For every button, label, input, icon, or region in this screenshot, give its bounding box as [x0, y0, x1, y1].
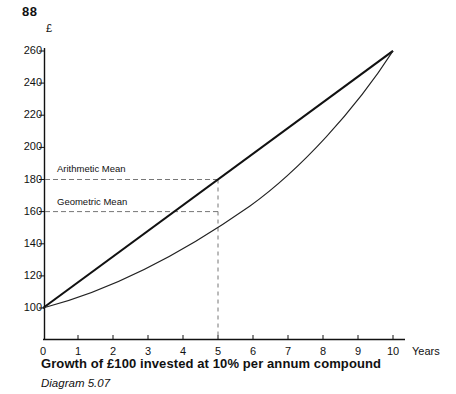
chart-caption-title: Growth of £100 invested at 10% per annum…: [41, 356, 381, 371]
annotation-arithmetic-mean: Arithmetic Mean: [57, 163, 126, 174]
annotation-geometric-mean: Geometric Mean: [57, 196, 127, 207]
figure-container: 88 £ 260 240 220 200 180 160 140 120 100…: [0, 0, 456, 394]
chart-figure-number: Diagram 5.07: [41, 377, 110, 389]
y-tick-marks: [39, 51, 44, 308]
